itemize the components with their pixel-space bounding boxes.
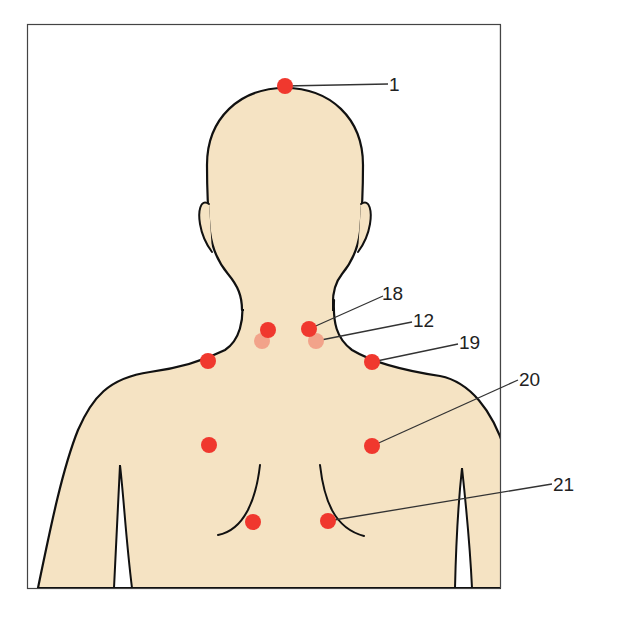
label-21: 21 <box>553 474 574 495</box>
label-20: 20 <box>519 369 540 390</box>
point-left-shoulder[interactable] <box>200 353 216 369</box>
head-outline <box>207 88 363 310</box>
point-18[interactable] <box>301 321 317 337</box>
point-21[interactable] <box>320 513 336 529</box>
point-left-chest[interactable] <box>201 437 217 453</box>
point-left-lower-chest[interactable] <box>245 514 261 530</box>
point-1[interactable] <box>277 78 293 94</box>
point-20[interactable] <box>364 438 380 454</box>
label-19: 19 <box>459 332 480 353</box>
point-left-neck[interactable] <box>260 322 276 338</box>
label-18: 18 <box>382 283 403 304</box>
body-points-diagram: 1 18 12 19 20 21 <box>0 0 618 626</box>
point-19[interactable] <box>364 354 380 370</box>
label-12: 12 <box>413 310 434 331</box>
label-1: 1 <box>389 74 400 95</box>
